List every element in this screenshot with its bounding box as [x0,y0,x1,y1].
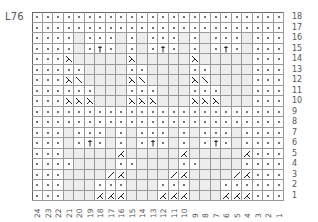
purl-dot-icon [263,159,273,169]
purl-dot-icon [127,33,137,43]
left-decrease-symbol-icon [64,96,74,106]
chart-cell-purl-dot [158,23,169,34]
purl-dot-icon [74,23,84,33]
purl-dot-icon [274,65,284,75]
row-label: 12 [292,75,302,86]
chart-cell-purl-dot [95,33,106,44]
purl-dot-icon [221,107,231,117]
chart-cell-empty-knit [106,138,117,149]
chart-cell-empty-knit [158,65,169,76]
purl-dot-icon [211,117,221,127]
chart-cell-purl-dot [74,117,85,128]
purl-dot-icon [253,170,263,180]
chart-cell-empty-knit [85,159,96,170]
chart-cell-purl-dot [53,138,64,149]
chart-cell-purl-dot [116,107,127,118]
row-label: 3 [292,170,297,181]
chart-cell-empty-knit [106,54,117,65]
chart-cell-purl-dot [127,117,138,128]
chart-cell-empty-knit [169,75,180,86]
chart-cell-purl-dot [274,159,285,170]
chart-cell-right-decrease-symbol [232,191,243,202]
chart-cell-empty-knit [74,54,85,65]
purl-dot-icon [53,128,63,138]
chart-cell-purl-dot [85,107,96,118]
chart-cell-purl-dot [95,23,106,34]
purl-dot-icon [53,23,63,33]
chart-cell-purl-dot [190,65,201,76]
chart-cell-purl-dot [137,138,148,149]
chart-cell-purl-dot [32,23,43,34]
chart-cell-purl-dot [274,33,285,44]
chart-cell-empty-knit [148,191,159,202]
purl-dot-icon [253,54,263,64]
chart-cell-empty-knit [85,54,96,65]
chart-cell-empty-knit [74,191,85,202]
purl-dot-icon [53,33,63,43]
chart-cell-purl-dot [158,12,169,23]
chart-cell-purl-dot [116,117,127,128]
chart-cell-empty-knit [200,170,211,181]
chart-cell-empty-knit [116,96,127,107]
chart-cell-purl-dot [137,128,148,139]
chart-cell-empty-knit [148,159,159,170]
chart-cell-empty-knit [74,33,85,44]
chart-cell-purl-dot [127,12,138,23]
chart-cell-left-decrease-symbol [190,96,201,107]
chart-cell-backslash [137,75,148,86]
chart-cell-purl-dot [179,138,190,149]
chart-cell-purl-dot [127,159,138,170]
purl-dot-icon [263,12,273,22]
purl-dot-icon [158,23,168,33]
purl-dot-icon [95,12,105,22]
purl-dot-icon [253,75,263,85]
purl-dot-icon [253,96,263,106]
chart-cell-purl-dot [106,23,117,34]
purl-dot-icon [53,96,63,106]
purl-dot-icon [263,107,273,117]
purl-dot-icon [200,107,210,117]
purl-dot-icon [43,54,53,64]
chart-cell-purl-dot [253,33,264,44]
purl-dot-icon [43,65,53,75]
chart-cell-left-decrease-symbol [85,96,96,107]
row-label: 17 [292,23,302,34]
chart-cell-purl-dot [32,86,43,97]
purl-dot-icon [43,44,53,54]
forward-slash-icon [232,170,242,180]
purl-dot-icon [95,117,105,127]
chart-cell-empty-knit [148,170,159,181]
purl-dot-icon [116,128,126,138]
purl-dot-icon [137,86,147,96]
right-decrease-symbol-icon [106,191,116,201]
chart-cell-purl-dot [274,12,285,23]
chart-cell-purl-dot [64,23,75,34]
chart-cell-purl-dot [253,107,264,118]
purl-dot-icon [43,12,53,22]
chart-cell-empty-knit [211,75,222,86]
purl-dot-icon [158,180,168,190]
column-label: 7 [212,213,221,218]
purl-dot-icon [263,54,273,64]
chart-cell-empty-knit [127,191,138,202]
chart-cell-empty-knit [158,170,169,181]
purl-dot-icon [32,191,42,201]
right-decrease-symbol-icon [179,170,189,180]
backslash-icon [74,75,84,85]
chart-cell-purl-dot [242,107,253,118]
row-label: 16 [292,33,302,44]
chart-cell-arrow-up [158,44,169,55]
purl-dot-icon [169,180,179,190]
chart-cell-purl-dot [263,23,274,34]
chart-cell-empty-knit [116,75,127,86]
right-decrease-symbol-icon [95,191,105,201]
chart-cell-purl-dot [211,33,222,44]
chart-cell-purl-dot [274,23,285,34]
chart-cell-purl-dot [148,44,159,55]
purl-dot-icon [43,23,53,33]
chart-cell-purl-dot [53,54,64,65]
purl-dot-icon [32,149,42,159]
row-label: 1 [292,191,297,202]
chart-cell-purl-dot [263,138,274,149]
purl-dot-icon [137,23,147,33]
